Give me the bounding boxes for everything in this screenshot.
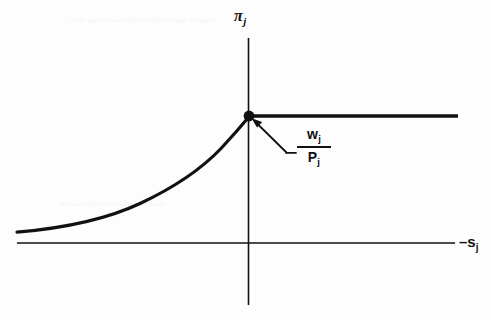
ratio-fraction-bar — [297, 146, 331, 148]
y-axis-label: πj — [234, 8, 246, 27]
x-axis-label: –sj — [459, 234, 478, 253]
annotation-arrow — [252, 118, 297, 153]
ratio-denominator: Pj — [297, 149, 331, 168]
x-axis-label-subscript: j — [476, 242, 479, 253]
y-axis-label-symbol: π — [234, 7, 243, 24]
y-axis-label-subscript: j — [243, 15, 246, 27]
ratio-denominator-symbol: P — [308, 149, 318, 165]
wage-price-ratio-annotation: wj Pj — [297, 126, 331, 168]
ratio-numerator-symbol: w — [307, 126, 318, 142]
profit-curve-rising-branch — [17, 117, 249, 232]
plot-canvas — [0, 0, 491, 320]
ratio-numerator-subscript: j — [318, 133, 321, 144]
ratio-numerator: wj — [297, 126, 331, 145]
x-axis-label-symbol: –s — [459, 233, 476, 250]
figure-panel: of the page beneath shows faintly throug… — [0, 0, 491, 320]
ratio-denominator-subscript: j — [317, 157, 320, 168]
